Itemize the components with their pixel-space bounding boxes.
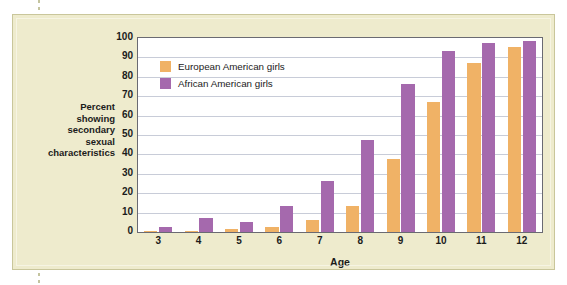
bar-12-african-american [523,41,536,232]
bar-3-european-american [144,231,157,232]
bar-group [300,38,340,232]
bar-4-european-american [185,231,198,232]
legend-swatch-icon [160,78,171,89]
legend-swatch-icon [160,61,171,72]
x-axis-tick-label: 6 [277,235,283,246]
legend-item: European American girls [160,58,285,75]
x-axis-tick-label: 8 [357,235,363,246]
bar-5-european-american [225,229,238,232]
x-axis-tick-label: 12 [516,235,527,246]
bar-7-european-american [306,220,319,232]
bar-9-african-american [401,84,414,232]
y-axis-tick-label: 40 [99,148,133,158]
chart-legend: European American girlsAfrican American … [160,58,285,92]
y-axis-tick-label: 10 [99,207,133,217]
x-axis-tick-labels: 3456789101112 [137,235,543,251]
bar-12-european-american [508,47,521,232]
bar-10-african-american [442,51,455,232]
y-axis-tick-label: 100 [99,32,133,42]
legend-item-label: African American girls [178,78,273,89]
y-axis-tick-label: 30 [99,168,133,178]
bar-8-african-american [361,140,374,232]
bar-6-african-american [280,206,293,232]
bar-8-european-american [346,206,359,232]
y-axis-tick-label: 90 [99,51,133,61]
bar-7-african-american [321,181,334,232]
y-axis-tick-label: 80 [99,71,133,81]
y-axis-tick-label: 20 [99,187,133,197]
y-axis-tick-label: 0 [99,226,133,236]
x-axis-tick-label: 3 [155,235,161,246]
bar-11-european-american [467,63,480,232]
x-axis-tick-label: 5 [236,235,242,246]
legend-item: African American girls [160,75,285,92]
x-axis-tick-label: 4 [196,235,202,246]
y-axis-tick-labels: 0102030405060708090100 [99,37,133,231]
x-axis-tick-label: 11 [476,235,487,246]
y-axis-tick-label: 70 [99,90,133,100]
x-axis-tick-label: 9 [398,235,404,246]
x-axis-tick-label: 7 [317,235,323,246]
bar-6-european-american [265,227,278,232]
x-axis-title: Age [137,256,543,268]
bar-group [461,38,501,232]
plot-area: European American girlsAfrican American … [137,37,543,233]
x-axis-tick-label: 10 [435,235,446,246]
bar-4-african-american [199,218,212,232]
y-axis-tick-label: 60 [99,110,133,120]
bar-group [340,38,380,232]
figure-panel: Percentshowingsecondarysexualcharacteris… [12,14,555,270]
bar-group [502,38,542,232]
bar-group [380,38,420,232]
bar-9-european-american [387,159,400,232]
bar-11-african-american [482,43,495,232]
y-axis-tick-label: 50 [99,129,133,139]
bar-10-european-american [427,102,440,232]
bar-group [421,38,461,232]
bar-3-african-american [159,227,172,232]
legend-item-label: European American girls [178,61,285,72]
bar-5-african-american [240,222,253,232]
